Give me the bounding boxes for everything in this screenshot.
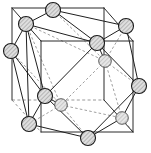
atom-bottom-front [81, 131, 96, 146]
atom-top-back [46, 3, 61, 18]
atom-circle [22, 117, 37, 132]
atom-center-left [38, 89, 53, 104]
atom-circle [132, 79, 147, 94]
atom-circle [55, 99, 68, 112]
atom-center-right [99, 55, 112, 68]
atom-bottom-left [22, 117, 37, 132]
atom-center-inner [55, 99, 68, 112]
atom-circle [38, 89, 53, 104]
atom-top-front [90, 36, 105, 51]
atom-bottom-right [116, 112, 129, 125]
atom-circle [19, 17, 34, 32]
crystal-structure-figure [0, 0, 151, 153]
atom-top-right [119, 19, 134, 34]
crystal-structure-diagram [0, 0, 151, 153]
atom-circle [119, 19, 134, 34]
atom-right-middle [132, 79, 147, 94]
atom-top-left [19, 17, 34, 32]
atom-circle [116, 112, 129, 125]
atom-circle [46, 3, 61, 18]
atom-left-upper [4, 44, 19, 59]
atom-circle [90, 36, 105, 51]
atom-circle [4, 44, 19, 59]
atom-circle [99, 55, 112, 68]
atom-circle [81, 131, 96, 146]
